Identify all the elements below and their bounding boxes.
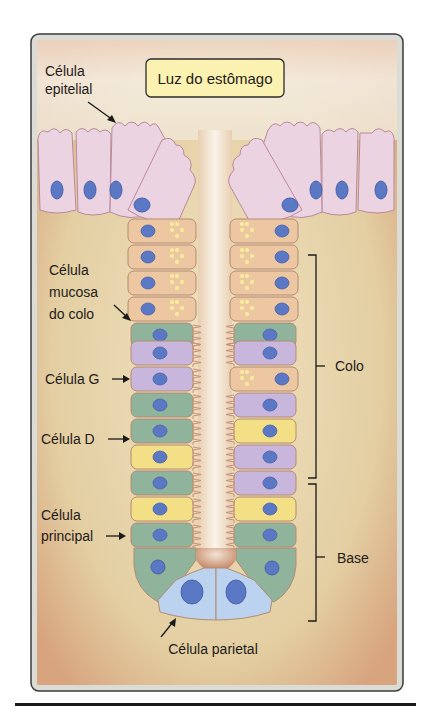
svg-text:principal: principal bbox=[41, 528, 93, 544]
nucleus bbox=[275, 251, 289, 263]
nucleus bbox=[153, 451, 167, 463]
granule bbox=[180, 254, 184, 258]
nucleus bbox=[141, 277, 155, 289]
gland-right-column bbox=[226, 219, 298, 549]
granule bbox=[240, 248, 244, 252]
nucleus bbox=[153, 329, 167, 341]
granule bbox=[175, 260, 179, 264]
granule bbox=[245, 274, 249, 278]
nucleus bbox=[153, 477, 167, 489]
mucous-cell bbox=[128, 245, 196, 269]
label-base: Base bbox=[337, 550, 369, 566]
nucleus bbox=[141, 225, 155, 237]
nucleus bbox=[153, 373, 167, 385]
granule bbox=[240, 300, 244, 304]
granule bbox=[240, 254, 244, 258]
gland-left-column bbox=[128, 219, 201, 549]
granule bbox=[240, 228, 244, 232]
svg-text:Célula parietal: Célula parietal bbox=[168, 641, 258, 657]
granule bbox=[175, 286, 179, 290]
granule bbox=[245, 312, 249, 316]
granule bbox=[245, 382, 249, 386]
nucleus bbox=[275, 277, 289, 289]
gland-lumen-bottom bbox=[196, 548, 236, 570]
granule bbox=[170, 280, 174, 284]
nucleus bbox=[263, 451, 277, 463]
mucous-cell bbox=[128, 297, 196, 321]
nucleus bbox=[141, 303, 155, 315]
granule bbox=[175, 312, 179, 316]
granule bbox=[250, 306, 254, 310]
nucleus bbox=[275, 303, 289, 315]
nucleus bbox=[275, 225, 289, 237]
granule bbox=[240, 274, 244, 278]
nucleus bbox=[263, 529, 277, 541]
nucleus bbox=[141, 251, 155, 263]
granule bbox=[240, 222, 244, 226]
nucleus bbox=[263, 477, 277, 489]
mucous-cell bbox=[128, 271, 196, 295]
nucleus bbox=[275, 373, 289, 385]
granule bbox=[245, 286, 249, 290]
granule bbox=[250, 376, 254, 380]
title-label: Luz do estômago bbox=[157, 70, 272, 87]
nucleus bbox=[153, 425, 167, 437]
granule bbox=[250, 254, 254, 258]
granule bbox=[245, 300, 249, 304]
nucleus bbox=[153, 503, 167, 515]
nucleus bbox=[153, 529, 167, 541]
bottom-rule bbox=[15, 703, 416, 706]
granule bbox=[170, 254, 174, 258]
granule bbox=[245, 248, 249, 252]
label-colo: Colo bbox=[335, 358, 364, 374]
granule bbox=[240, 376, 244, 380]
granule bbox=[175, 300, 179, 304]
svg-text:Célula G: Célula G bbox=[45, 371, 99, 387]
nucleus bbox=[263, 399, 277, 411]
granule bbox=[170, 300, 174, 304]
granule bbox=[180, 306, 184, 310]
svg-text:epitelial: epitelial bbox=[45, 81, 92, 97]
granule bbox=[170, 222, 174, 226]
gastric-gland-diagram: Luz do estômago Célula epitelial Célula … bbox=[0, 0, 430, 715]
svg-text:Célula: Célula bbox=[49, 262, 89, 278]
nucleus bbox=[263, 503, 277, 515]
svg-text:Célula D: Célula D bbox=[41, 431, 95, 447]
granule bbox=[245, 222, 249, 226]
granule bbox=[175, 274, 179, 278]
granule bbox=[240, 370, 244, 374]
granule bbox=[250, 280, 254, 284]
granule bbox=[170, 228, 174, 232]
granule bbox=[170, 248, 174, 252]
granule bbox=[240, 306, 244, 310]
granule bbox=[180, 228, 184, 232]
granule bbox=[170, 306, 174, 310]
nucleus bbox=[263, 347, 277, 359]
svg-text:do colo: do colo bbox=[49, 306, 94, 322]
svg-text:mucosa: mucosa bbox=[49, 284, 98, 300]
granule bbox=[240, 280, 244, 284]
granule bbox=[175, 234, 179, 238]
granule bbox=[175, 248, 179, 252]
granule bbox=[170, 274, 174, 278]
granule bbox=[250, 228, 254, 232]
svg-text:Célula: Célula bbox=[45, 63, 85, 79]
granule bbox=[245, 260, 249, 264]
nucleus bbox=[263, 329, 277, 341]
svg-text:Célula: Célula bbox=[41, 507, 81, 523]
nucleus bbox=[153, 399, 167, 411]
mucous-cell bbox=[128, 219, 196, 243]
title-box: Luz do estômago bbox=[146, 59, 284, 97]
granule bbox=[175, 222, 179, 226]
nucleus bbox=[263, 425, 277, 437]
nucleus bbox=[153, 347, 167, 359]
granule bbox=[245, 234, 249, 238]
granule bbox=[245, 370, 249, 374]
granule bbox=[180, 280, 184, 284]
